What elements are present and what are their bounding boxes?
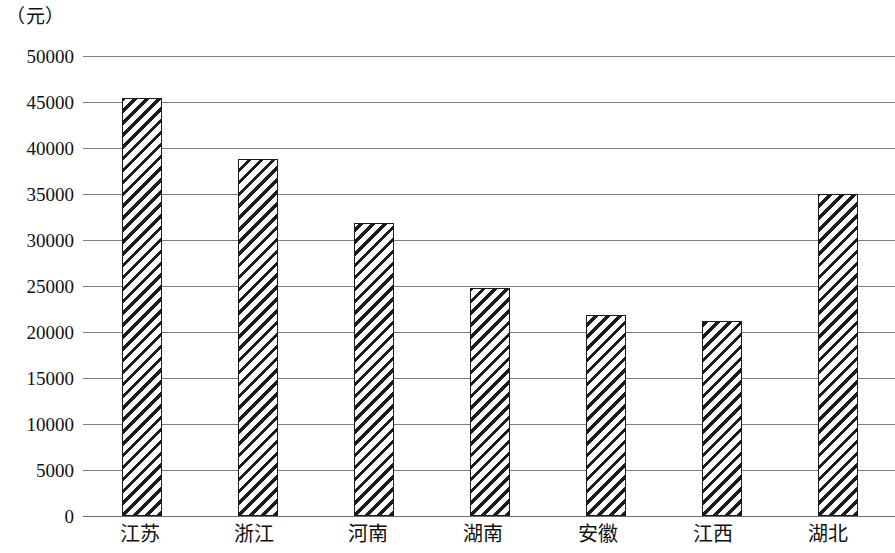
bar-henan: [354, 223, 394, 516]
x-axis-label-zhejiang: 浙江: [194, 522, 314, 546]
y-axis-tick-label: 15000: [2, 369, 74, 388]
bar-hunan: [470, 288, 510, 516]
y-axis-tick-label: 25000: [2, 277, 74, 296]
y-axis-tick-label: 35000: [2, 185, 74, 204]
bar-chart: （元） 50000 45000 40000 35000 30000 25000 …: [0, 0, 895, 553]
y-axis-tick-labels: 50000 45000 40000 35000 30000 25000 2000…: [0, 0, 74, 553]
y-axis-tick-label: 20000: [2, 323, 74, 342]
gridline: [83, 194, 895, 195]
x-axis-label-hunan: 湖南: [423, 522, 543, 546]
x-axis-label-anhui: 安徽: [538, 522, 658, 546]
gridline: [83, 148, 895, 149]
gridline: [83, 102, 895, 103]
bar-anhui: [586, 315, 626, 516]
bar-jiangsu: [122, 98, 162, 516]
x-axis-label-jiangsu: 江苏: [80, 522, 200, 546]
y-axis-tick-label: 40000: [2, 139, 74, 158]
y-axis-tick-label: 10000: [2, 415, 74, 434]
y-axis-tick-label: 50000: [2, 47, 74, 66]
x-axis-baseline: [83, 516, 895, 517]
y-axis-tick-label: 0: [2, 507, 74, 526]
y-axis-tick-label: 30000: [2, 231, 74, 250]
bar-jiangxi: [702, 321, 742, 516]
y-axis-tick-label: 5000: [2, 461, 74, 480]
gridline: [83, 240, 895, 241]
bar-zhejiang: [238, 159, 278, 516]
y-axis-tick-label: 45000: [2, 93, 74, 112]
bar-hubei: [818, 194, 858, 516]
x-axis-label-henan: 河南: [308, 522, 428, 546]
plot-area: [83, 0, 895, 553]
gridline: [83, 56, 895, 57]
x-axis-label-jiangxi: 江西: [653, 522, 773, 546]
x-axis-label-hubei: 湖北: [768, 522, 888, 546]
